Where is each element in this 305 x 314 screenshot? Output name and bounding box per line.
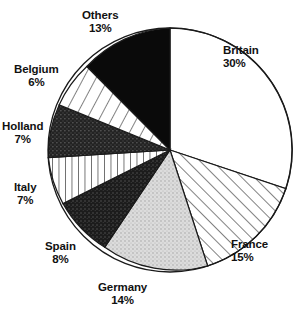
slice-label-spain-value: 8% <box>45 253 76 266</box>
slice-label-britain: Britain 30% <box>223 44 259 70</box>
slice-label-holland-name: Holland <box>2 120 43 133</box>
slice-label-italy: Italy 7% <box>14 181 37 207</box>
pie-chart: Britain 30% France 15% Germany 14% Spain… <box>0 0 305 314</box>
slice-label-france: France 15% <box>231 238 268 264</box>
slice-label-spain-name: Spain <box>45 240 76 253</box>
slice-label-belgium-value: 6% <box>14 76 59 89</box>
slice-label-holland-value: 7% <box>2 133 43 146</box>
slice-label-holland: Holland 7% <box>2 120 43 146</box>
pie-chart-canvas <box>0 0 305 314</box>
slice-label-others: Others 13% <box>82 9 118 35</box>
slice-label-others-name: Others <box>82 9 118 22</box>
slice-label-france-name: France <box>231 238 268 251</box>
slice-label-italy-name: Italy <box>14 181 37 194</box>
slice-label-others-value: 13% <box>82 22 118 35</box>
slice-label-italy-value: 7% <box>14 194 37 207</box>
slice-label-germany-value: 14% <box>98 294 147 307</box>
slice-label-britain-name: Britain <box>223 44 259 57</box>
slice-label-france-value: 15% <box>231 251 268 264</box>
slice-label-germany-name: Germany <box>98 281 147 294</box>
slice-label-germany: Germany 14% <box>98 281 147 307</box>
slice-label-belgium-name: Belgium <box>14 63 59 76</box>
slice-label-belgium: Belgium 6% <box>14 63 59 89</box>
slice-label-britain-value: 30% <box>223 57 259 70</box>
slice-label-spain: Spain 8% <box>45 240 76 266</box>
